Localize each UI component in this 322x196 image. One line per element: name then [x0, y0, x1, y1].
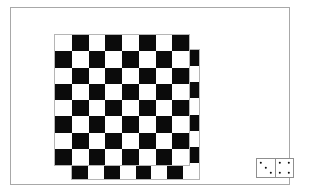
board-square[interactable] [139, 51, 156, 67]
domino-pip [260, 162, 262, 164]
board-square[interactable] [172, 84, 189, 100]
board-square[interactable] [105, 116, 122, 132]
board-square[interactable] [105, 51, 122, 67]
board-square[interactable] [89, 68, 106, 84]
board-square[interactable] [156, 149, 173, 165]
board-square[interactable] [72, 100, 89, 116]
board-square[interactable] [55, 51, 72, 67]
outer-frame [10, 7, 290, 185]
board-square[interactable] [105, 149, 122, 165]
board-square[interactable] [89, 84, 106, 100]
board-square[interactable] [156, 84, 173, 100]
domino-half-left [257, 159, 276, 177]
scene-canvas [0, 0, 322, 196]
board-square[interactable] [156, 116, 173, 132]
board-square[interactable] [55, 149, 72, 165]
board-square[interactable] [72, 68, 89, 84]
board-square[interactable] [55, 35, 72, 51]
board-square[interactable] [172, 149, 189, 165]
board-square[interactable] [105, 133, 122, 149]
board-square[interactable] [55, 133, 72, 149]
board-square[interactable] [55, 68, 72, 84]
front-checkerboard[interactable] [54, 34, 190, 166]
board-square[interactable] [156, 35, 173, 51]
board-square[interactable] [72, 116, 89, 132]
board-square[interactable] [72, 84, 89, 100]
board-square[interactable] [55, 100, 72, 116]
board-square[interactable] [172, 133, 189, 149]
board-square[interactable] [72, 51, 89, 67]
board-square[interactable] [105, 100, 122, 116]
board-square[interactable] [122, 35, 139, 51]
board-square[interactable] [139, 84, 156, 100]
board-square[interactable] [72, 149, 89, 165]
board-square[interactable] [172, 51, 189, 67]
board-square[interactable] [122, 133, 139, 149]
board-square[interactable] [139, 68, 156, 84]
domino-pip [288, 172, 290, 174]
board-square[interactable] [89, 51, 106, 67]
board-square[interactable] [156, 133, 173, 149]
board-square[interactable] [89, 35, 106, 51]
domino-pip [265, 167, 267, 169]
board-square[interactable] [89, 116, 106, 132]
domino-pip [269, 172, 271, 174]
board-square[interactable] [172, 35, 189, 51]
board-square[interactable] [72, 35, 89, 51]
board-square[interactable] [105, 84, 122, 100]
domino-pip [278, 162, 280, 164]
board-square[interactable] [122, 100, 139, 116]
board-square[interactable] [156, 51, 173, 67]
board-square[interactable] [139, 149, 156, 165]
domino-pip [278, 172, 280, 174]
domino-half-right [276, 159, 294, 177]
board-square[interactable] [172, 100, 189, 116]
board-square[interactable] [89, 149, 106, 165]
board-square[interactable] [172, 116, 189, 132]
board-square[interactable] [139, 133, 156, 149]
board-square[interactable] [89, 133, 106, 149]
board-square[interactable] [55, 84, 72, 100]
board-square[interactable] [105, 35, 122, 51]
board-square[interactable] [122, 116, 139, 132]
board-square[interactable] [122, 68, 139, 84]
board-square[interactable] [122, 51, 139, 67]
board-square[interactable] [105, 68, 122, 84]
domino-pip [288, 162, 290, 164]
board-square[interactable] [172, 68, 189, 84]
domino-tile[interactable] [256, 158, 294, 178]
board-square[interactable] [156, 68, 173, 84]
board-square[interactable] [139, 100, 156, 116]
board-square[interactable] [139, 116, 156, 132]
board-square[interactable] [122, 149, 139, 165]
board-square[interactable] [89, 100, 106, 116]
board-square[interactable] [139, 35, 156, 51]
board-square[interactable] [122, 84, 139, 100]
board-square[interactable] [72, 133, 89, 149]
board-square[interactable] [55, 116, 72, 132]
board-square[interactable] [156, 100, 173, 116]
